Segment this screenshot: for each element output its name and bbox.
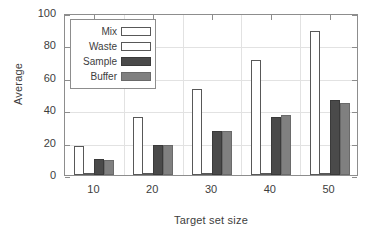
x-tick-mark xyxy=(330,15,331,20)
legend-item-mix: Mix xyxy=(73,24,151,39)
y-tick-mark xyxy=(352,112,357,113)
x-tick-mark xyxy=(212,15,213,20)
x-tick-label: 50 xyxy=(309,184,349,195)
bar-mix-30 xyxy=(192,89,202,175)
legend-item-sample: Sample xyxy=(73,54,151,69)
legend-swatch-mix-icon xyxy=(121,27,151,36)
gridline-vertical xyxy=(241,15,242,175)
y-tick-mark xyxy=(352,47,357,48)
bar-sample-30 xyxy=(212,131,222,175)
bar-mix-10 xyxy=(74,146,84,175)
y-tick-label: 20 xyxy=(4,138,56,149)
legend-label-buffer: Buffer xyxy=(91,72,122,82)
bar-buffer-20 xyxy=(163,145,173,175)
x-tick-label: 20 xyxy=(132,184,172,195)
y-tick-mark xyxy=(65,177,70,178)
bar-chart: Average 020406080100 1020304050 Mix Wast… xyxy=(0,0,374,241)
bar-buffer-50 xyxy=(340,103,350,175)
y-tick-mark xyxy=(65,112,70,113)
bar-mix-40 xyxy=(251,60,261,175)
y-tick-mark xyxy=(65,15,70,16)
legend-label-sample: Sample xyxy=(83,57,121,67)
y-tick-mark xyxy=(352,145,357,146)
bar-mix-50 xyxy=(310,31,320,175)
bar-sample-20 xyxy=(153,145,163,175)
legend-label-mix: Mix xyxy=(101,27,121,37)
y-tick-label: 100 xyxy=(4,8,56,19)
y-tick-label: 0 xyxy=(4,170,56,181)
bar-mix-20 xyxy=(133,117,143,175)
y-tick-label: 40 xyxy=(4,105,56,116)
bar-sample-10 xyxy=(94,159,104,175)
bar-buffer-10 xyxy=(104,160,114,175)
bar-buffer-30 xyxy=(222,131,232,175)
legend-swatch-waste-icon xyxy=(121,42,151,51)
bar-buffer-40 xyxy=(281,115,291,175)
legend-swatch-sample-icon xyxy=(121,57,151,66)
x-tick-mark xyxy=(271,15,272,20)
y-tick-label: 80 xyxy=(4,40,56,51)
chart-legend: Mix Waste Sample Buffer xyxy=(70,19,156,89)
bar-waste-50 xyxy=(320,173,330,175)
gridline-vertical xyxy=(183,15,184,175)
y-tick-label: 60 xyxy=(4,73,56,84)
legend-item-buffer: Buffer xyxy=(73,69,151,84)
legend-item-waste: Waste xyxy=(73,39,151,54)
bar-sample-50 xyxy=(330,100,340,175)
bar-waste-30 xyxy=(202,173,212,175)
plot-area: Mix Waste Sample Buffer xyxy=(64,14,358,176)
x-axis-title: Target set size xyxy=(64,214,358,226)
bar-waste-10 xyxy=(84,173,94,175)
legend-swatch-buffer-icon xyxy=(121,72,151,81)
y-tick-mark xyxy=(352,177,357,178)
gridline-vertical xyxy=(300,15,301,175)
x-tick-label: 30 xyxy=(191,184,231,195)
y-tick-mark xyxy=(65,145,70,146)
x-tick-label: 40 xyxy=(250,184,290,195)
bar-waste-40 xyxy=(261,173,271,175)
y-tick-mark xyxy=(352,15,357,16)
x-tick-label: 10 xyxy=(73,184,113,195)
bar-sample-40 xyxy=(271,117,281,175)
bar-waste-20 xyxy=(143,173,153,175)
y-tick-mark xyxy=(352,80,357,81)
legend-label-waste: Waste xyxy=(89,42,121,52)
